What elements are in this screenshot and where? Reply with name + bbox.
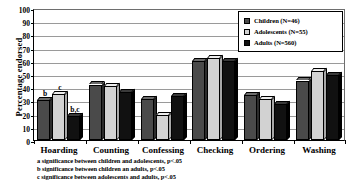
bar-side-face bbox=[80, 113, 83, 140]
bar bbox=[222, 61, 237, 140]
y-tick-label: 0 bbox=[26, 138, 30, 147]
bar-front-face bbox=[259, 99, 272, 140]
bar bbox=[104, 86, 119, 140]
bar-front-face bbox=[104, 86, 117, 140]
bar bbox=[274, 104, 289, 140]
bar-front-face bbox=[244, 95, 257, 140]
footnote-list: a significance between children and adol… bbox=[37, 157, 337, 182]
y-tick-label: 40 bbox=[23, 85, 31, 94]
x-tick-mark bbox=[294, 140, 295, 144]
bar-side-face bbox=[287, 101, 290, 140]
bar-slot bbox=[67, 10, 82, 140]
bar-front-face bbox=[119, 92, 132, 140]
chart-legend: Children (N=46)Adolescents (N=55)Adults … bbox=[238, 11, 343, 52]
significance-marker: b bbox=[43, 89, 47, 98]
bar-chart-figure: Percentage endorsed 10090807060504030201… bbox=[0, 0, 352, 193]
bar-side-face bbox=[235, 58, 238, 140]
x-tick-mark bbox=[345, 140, 346, 144]
bar-front-face bbox=[141, 99, 154, 140]
bar-front-face bbox=[171, 96, 184, 140]
significance-marker: b,c bbox=[70, 105, 79, 114]
bar-front-face bbox=[207, 58, 220, 140]
bar-front-face bbox=[274, 104, 287, 140]
bar bbox=[259, 99, 274, 140]
bar-slot bbox=[207, 10, 222, 140]
bar bbox=[52, 94, 67, 140]
bar bbox=[244, 95, 259, 140]
bar bbox=[311, 71, 326, 140]
bar bbox=[89, 85, 104, 140]
x-tick-mark bbox=[242, 140, 243, 144]
bar-front-face bbox=[326, 75, 339, 140]
x-tick-mark bbox=[138, 140, 139, 144]
x-tick-mark bbox=[86, 140, 87, 144]
x-axis-category-label: Washing bbox=[293, 145, 345, 155]
bar-slot bbox=[52, 10, 67, 140]
bar-front-face bbox=[311, 71, 324, 140]
bar-front-face bbox=[89, 85, 102, 140]
bar-group bbox=[137, 10, 189, 140]
legend-label: Adults (N=560) bbox=[254, 39, 296, 46]
legend-swatch bbox=[244, 18, 250, 24]
y-tick-label: 20 bbox=[23, 111, 31, 120]
legend-item: Adults (N=560) bbox=[244, 37, 338, 48]
bar-slot bbox=[104, 10, 119, 140]
x-tick-mark bbox=[34, 140, 35, 144]
bar-front-face bbox=[67, 116, 80, 140]
footnote: b significance between children an adult… bbox=[37, 165, 337, 173]
bar bbox=[171, 96, 186, 140]
legend-label: Adolescents (N=55) bbox=[254, 28, 308, 35]
x-axis-category-label: Confessing bbox=[137, 145, 189, 155]
bar-slot bbox=[222, 10, 237, 140]
significance-marker: c bbox=[58, 83, 61, 92]
footnote: a significance between children and adol… bbox=[37, 157, 337, 165]
y-tick-label: 90 bbox=[23, 19, 31, 28]
bar bbox=[296, 81, 311, 140]
bar-group bbox=[86, 10, 138, 140]
legend-swatch bbox=[244, 40, 250, 46]
bar-slot bbox=[171, 10, 186, 140]
y-tick-label: 10 bbox=[23, 124, 31, 133]
bar-group bbox=[34, 10, 86, 140]
bar bbox=[141, 99, 156, 140]
bar-slot bbox=[156, 10, 171, 140]
bar-side-face bbox=[132, 89, 135, 140]
x-tick-mark bbox=[190, 140, 191, 144]
legend-item: Adolescents (N=55) bbox=[244, 26, 338, 37]
bar bbox=[156, 115, 171, 140]
y-tick-label: 60 bbox=[23, 58, 31, 67]
bar-front-face bbox=[156, 115, 169, 140]
bar-slot bbox=[141, 10, 156, 140]
bar bbox=[207, 58, 222, 140]
bar bbox=[192, 61, 207, 140]
bar-group bbox=[189, 10, 241, 140]
x-axis-category-label: Hoarding bbox=[33, 145, 85, 155]
bar-side-face bbox=[184, 93, 187, 140]
bar bbox=[119, 92, 134, 140]
y-tick-label: 50 bbox=[23, 72, 31, 81]
legend-swatch bbox=[244, 29, 250, 35]
x-axis-category-label: Counting bbox=[85, 145, 137, 155]
bar-front-face bbox=[192, 61, 205, 140]
bar-front-face bbox=[296, 81, 309, 140]
y-tick-label: 70 bbox=[23, 45, 31, 54]
bar-slot bbox=[89, 10, 104, 140]
bar-slot bbox=[37, 10, 52, 140]
bar-front-face bbox=[52, 94, 65, 140]
legend-label: Children (N=46) bbox=[254, 17, 300, 24]
x-axis-category-label: Ordering bbox=[241, 145, 293, 155]
bar bbox=[326, 75, 341, 140]
footnote: c significance between adolescents and a… bbox=[37, 173, 337, 181]
bar-front-face bbox=[37, 100, 50, 140]
bar-slot bbox=[119, 10, 134, 140]
y-tick-label: 100 bbox=[19, 6, 30, 15]
bar bbox=[67, 116, 82, 140]
bar-slot bbox=[192, 10, 207, 140]
legend-item: Children (N=46) bbox=[244, 15, 338, 26]
bar bbox=[37, 100, 52, 140]
y-tick-label: 30 bbox=[23, 98, 31, 107]
y-tick-label: 80 bbox=[23, 32, 31, 41]
bar-front-face bbox=[222, 61, 235, 140]
x-axis-labels: HoardingCountingConfessingCheckingOrderi… bbox=[33, 145, 345, 155]
x-axis-category-label: Checking bbox=[189, 145, 241, 155]
